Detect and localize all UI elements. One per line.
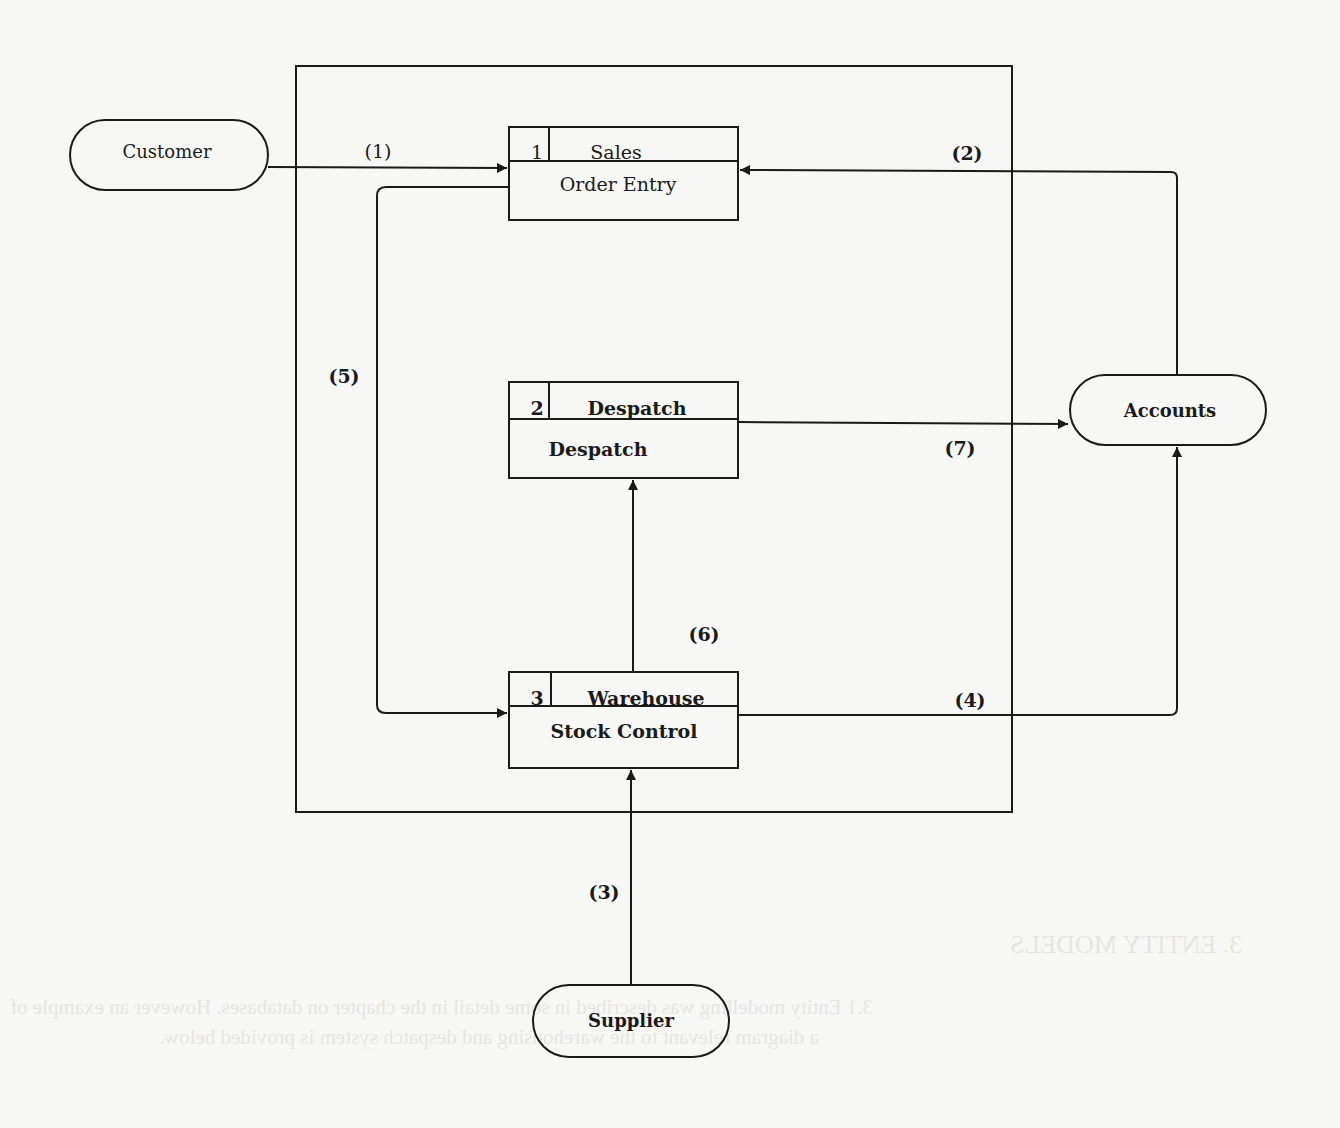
flow-label-4: (4) (954, 689, 985, 711)
flow-4-line (738, 447, 1177, 715)
flow-label-5: (5) (328, 365, 359, 387)
process-2-number: 2 (530, 397, 543, 419)
flow-label-1: (1) (365, 140, 392, 162)
flow-7-line (738, 422, 1068, 424)
process-1-number: 1 (531, 141, 543, 163)
accounts-entity[interactable]: Accounts (1124, 400, 1217, 421)
data-flow-diagram (0, 0, 1340, 1128)
flow-1-line (268, 167, 507, 168)
process-1-location: Sales (590, 141, 641, 163)
flow-label-7: (7) (944, 437, 975, 459)
flow-5-line (377, 187, 509, 713)
process-3-name[interactable]: Stock Control (551, 720, 698, 742)
supplier-entity[interactable]: Supplier (588, 1010, 674, 1031)
process-3-number: 3 (530, 687, 543, 709)
flow-2-line (740, 170, 1177, 375)
flow-label-2: (2) (951, 142, 982, 164)
process-3-location: Warehouse (587, 687, 704, 709)
process-2-name[interactable]: Despatch (548, 438, 647, 460)
flow-label-3: (3) (588, 881, 619, 903)
flow-label-6: (6) (688, 623, 719, 645)
process-2-location: Despatch (587, 397, 686, 419)
process-1-name[interactable]: Order Entry (560, 173, 677, 195)
customer-entity[interactable]: Customer (123, 141, 212, 162)
